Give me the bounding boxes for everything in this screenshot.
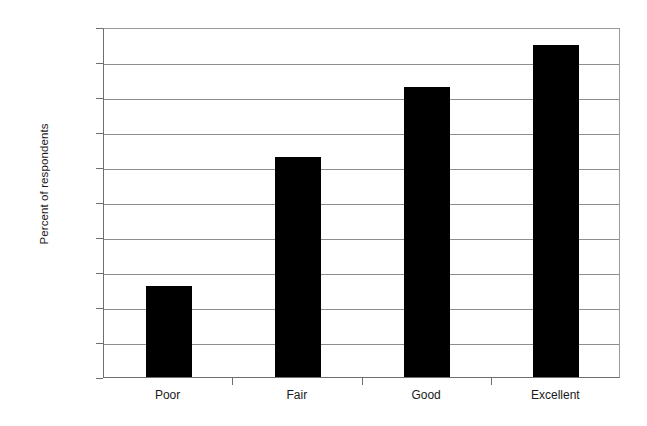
y-axis-tick-mark — [96, 63, 103, 64]
y-axis-tick-mark — [96, 343, 103, 344]
bar[interactable] — [404, 87, 450, 378]
x-axis-category-label: Fair — [227, 388, 367, 402]
y-axis-tick-mark — [96, 308, 103, 309]
y-axis-tick-mark — [96, 98, 103, 99]
x-axis-tick-mark — [362, 378, 363, 385]
y-axis-tick-mark — [96, 203, 103, 204]
y-axis-tick-mark — [96, 273, 103, 274]
bar-slot — [233, 29, 362, 377]
x-axis-tick-mark — [232, 378, 233, 385]
y-axis-tick-mark — [96, 238, 103, 239]
bar[interactable] — [146, 286, 192, 377]
bar-chart: Percent of respondents 0%10%20%30%40%50%… — [0, 0, 647, 426]
bar-slot — [363, 29, 492, 377]
x-axis-category-label: Excellent — [485, 388, 625, 402]
x-axis-tick-mark — [491, 378, 492, 385]
bar-slot — [104, 29, 233, 377]
plot-area — [103, 28, 620, 378]
y-axis-tick-mark — [96, 378, 103, 379]
bar[interactable] — [533, 45, 579, 378]
x-axis-category-label: Poor — [98, 388, 238, 402]
bar-slot — [492, 29, 621, 377]
x-axis-category-label: Good — [356, 388, 496, 402]
y-axis-tick-mark — [96, 133, 103, 134]
y-axis-title: Percent of respondents — [38, 74, 58, 294]
bar[interactable] — [275, 157, 321, 378]
y-axis-tick-mark — [96, 168, 103, 169]
y-axis-tick-mark — [96, 28, 103, 29]
